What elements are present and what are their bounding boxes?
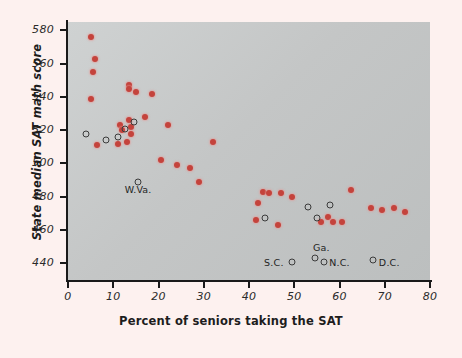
y-tick-mark bbox=[60, 262, 66, 264]
x-tick-label: 60 bbox=[325, 290, 355, 303]
data-point bbox=[288, 258, 295, 265]
data-point bbox=[149, 91, 155, 97]
y-tick-mark bbox=[60, 63, 66, 65]
data-point bbox=[124, 139, 130, 145]
data-point bbox=[327, 202, 334, 209]
y-tick-mark bbox=[60, 129, 66, 131]
data-point bbox=[196, 179, 202, 185]
data-point bbox=[94, 142, 100, 148]
data-point bbox=[261, 215, 268, 222]
y-tick-mark bbox=[60, 29, 66, 31]
x-tick-mark bbox=[384, 282, 386, 288]
point-annotation: W.Va. bbox=[125, 184, 152, 195]
x-tick-mark bbox=[203, 282, 205, 288]
x-tick-mark bbox=[293, 282, 295, 288]
data-point bbox=[130, 118, 137, 125]
data-point bbox=[90, 69, 96, 75]
x-tick-mark bbox=[67, 282, 69, 288]
y-axis-line bbox=[66, 20, 68, 282]
data-point bbox=[174, 162, 180, 168]
data-point bbox=[339, 219, 345, 225]
data-point bbox=[379, 207, 385, 213]
data-point bbox=[187, 165, 193, 171]
data-point bbox=[92, 56, 98, 62]
point-annotation: N.C. bbox=[329, 257, 350, 268]
data-point bbox=[330, 219, 336, 225]
x-tick-label: 30 bbox=[189, 290, 219, 303]
data-point bbox=[266, 190, 272, 196]
x-tick-mark bbox=[429, 282, 431, 288]
x-tick-label: 0 bbox=[53, 290, 83, 303]
y-tick-mark bbox=[60, 96, 66, 98]
y-tick-label: 440 bbox=[14, 256, 54, 269]
x-tick-mark bbox=[248, 282, 250, 288]
x-tick-label: 20 bbox=[144, 290, 174, 303]
data-point bbox=[133, 89, 139, 95]
data-point bbox=[275, 222, 281, 228]
data-point bbox=[114, 133, 121, 140]
data-point bbox=[304, 203, 311, 210]
data-point bbox=[88, 96, 94, 102]
x-tick-mark bbox=[112, 282, 114, 288]
x-tick-label: 70 bbox=[370, 290, 400, 303]
data-point bbox=[83, 130, 90, 137]
data-point bbox=[368, 205, 374, 211]
x-axis-title: Percent of seniors taking the SAT bbox=[0, 314, 462, 328]
data-point bbox=[289, 194, 295, 200]
data-point bbox=[121, 125, 128, 132]
y-axis-title: State median SAT math score bbox=[30, 27, 44, 257]
x-tick-label: 40 bbox=[234, 290, 264, 303]
data-point bbox=[210, 139, 216, 145]
panel-background bbox=[68, 22, 430, 280]
scatter-plot-figure: 440460480500520540560580 010203040506070… bbox=[0, 0, 462, 358]
x-tick-label: 50 bbox=[279, 290, 309, 303]
data-point bbox=[115, 141, 121, 147]
data-point bbox=[278, 190, 284, 196]
data-point bbox=[103, 137, 110, 144]
data-point bbox=[253, 217, 259, 223]
data-point bbox=[320, 258, 327, 265]
data-point bbox=[313, 215, 320, 222]
data-point bbox=[370, 257, 377, 264]
y-tick-mark bbox=[60, 229, 66, 231]
data-point bbox=[348, 187, 354, 193]
x-tick-mark bbox=[339, 282, 341, 288]
data-point bbox=[126, 86, 132, 92]
data-point bbox=[391, 205, 397, 211]
y-tick-mark bbox=[60, 196, 66, 198]
data-point bbox=[402, 209, 408, 215]
point-annotation: S.C. bbox=[264, 257, 284, 268]
data-point bbox=[311, 255, 318, 262]
data-point bbox=[260, 189, 266, 195]
point-annotation: Ga. bbox=[313, 242, 330, 253]
y-tick-mark bbox=[60, 162, 66, 164]
data-point bbox=[128, 131, 134, 137]
x-tick-label: 80 bbox=[415, 290, 445, 303]
data-point bbox=[142, 114, 148, 120]
data-point bbox=[165, 122, 171, 128]
point-annotation: D.C. bbox=[379, 257, 400, 268]
plot-panel bbox=[68, 22, 430, 280]
data-point bbox=[255, 200, 261, 206]
x-tick-label: 10 bbox=[98, 290, 128, 303]
data-point bbox=[88, 34, 94, 40]
data-point bbox=[158, 157, 164, 163]
x-tick-mark bbox=[158, 282, 160, 288]
